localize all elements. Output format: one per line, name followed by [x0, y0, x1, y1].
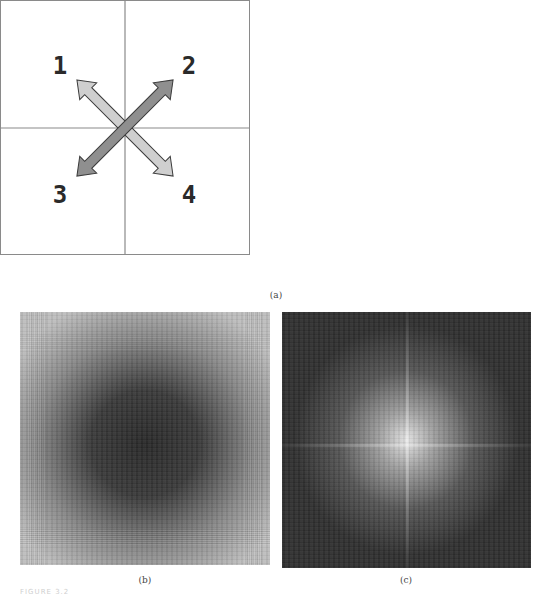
caption-b: (b): [139, 576, 152, 585]
quadrant-label-2: 2: [182, 54, 196, 78]
figure-number-label: FIGURE 3.2: [20, 588, 69, 594]
top-edge-streak-band: [20, 334, 270, 350]
figure-a-quadrant-diagram: 1 2 3 4: [0, 0, 250, 255]
bottom-edge-streak-band: [20, 529, 270, 545]
caption-c: (c): [400, 576, 412, 585]
quadrant-label-4: 4: [182, 183, 196, 207]
central-horizontal-bright-line: [282, 444, 531, 447]
central-vertical-bright-line: [406, 312, 409, 568]
quadrant-label-3: 3: [53, 183, 67, 207]
quadrant-label-1: 1: [53, 54, 67, 78]
figure-b-spectrum-image: [20, 312, 270, 565]
caption-a: (a): [270, 291, 282, 300]
quadrant-diagram-graphic: [0, 0, 250, 255]
figure-c-spectrum-image: [282, 312, 531, 568]
